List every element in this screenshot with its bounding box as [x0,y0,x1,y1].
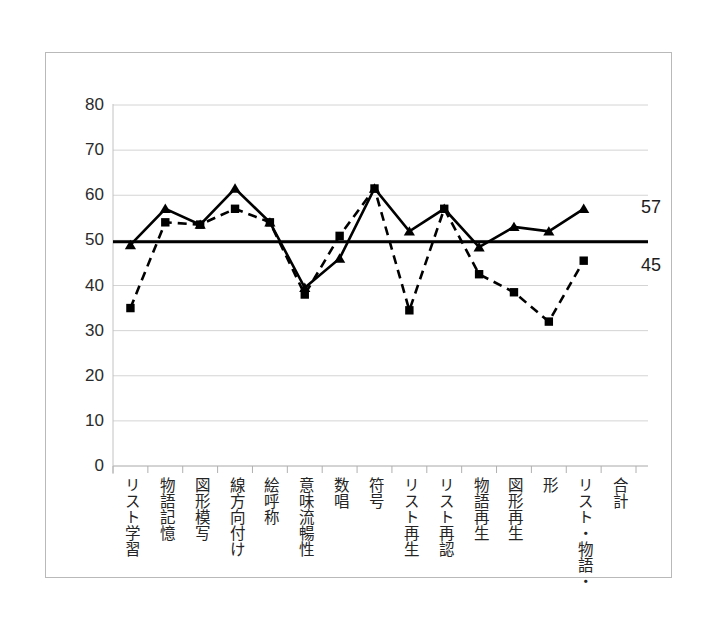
series-line-dashed [130,188,583,321]
ytick-label: 80 [64,96,104,113]
data-point-marker [335,232,343,240]
data-point-marker [266,218,274,226]
xtick-label: 線方向付け [225,477,244,557]
ytick-label: 10 [64,412,104,429]
data-point-marker [405,306,413,314]
data-point-marker [578,204,589,213]
xtick-label: リスト再認 [434,477,453,557]
xtick-label: 意味流暢性 [294,477,313,557]
data-point-marker [334,253,345,262]
xtick-label: リスト学習 [120,477,139,557]
ytick-label: 60 [64,186,104,203]
data-point-marker [545,317,553,325]
data-point-marker [161,218,169,226]
figure-root: 80 70 60 50 40 30 20 10 0 リスト学習物語記憶図形模写線… [0,0,716,640]
xtick-label: 物語再生 [469,477,488,541]
data-point-marker [475,270,483,278]
xtick-label: 図形再生 [503,477,522,541]
data-point-marker [370,184,378,192]
series-end-label-dashed: 45 [641,256,661,274]
xtick-label: 絵呼称 [259,477,278,525]
ytick-label: 50 [64,231,104,248]
ytick-label: 40 [64,277,104,294]
ytick-label: 30 [64,322,104,339]
series-end-label-solid: 57 [641,198,661,216]
xtick-label: 数唱 [329,477,348,509]
data-point-marker [196,220,204,228]
data-point-marker [160,204,171,213]
data-point-marker [580,256,588,264]
xtick-label: リスト・物語・ [573,477,592,589]
data-point-marker [229,183,240,192]
data-point-marker [510,288,518,296]
xtick-label: 合計 [608,477,627,509]
xtick-label: 形 [538,477,557,493]
data-point-marker [440,205,448,213]
data-point-marker [301,290,309,298]
data-point-marker [126,304,134,312]
ytick-label: 0 [64,457,104,474]
ytick-label: 70 [64,141,104,158]
ytick-label: 20 [64,367,104,384]
xtick-label: リスト再生 [399,477,418,557]
xtick-label: 物語記憶 [155,477,174,541]
xtick-label: 符号 [364,477,383,509]
xtick-label: 図形模写 [190,477,209,541]
series-line-solid [130,188,583,287]
data-point-marker [231,205,239,213]
